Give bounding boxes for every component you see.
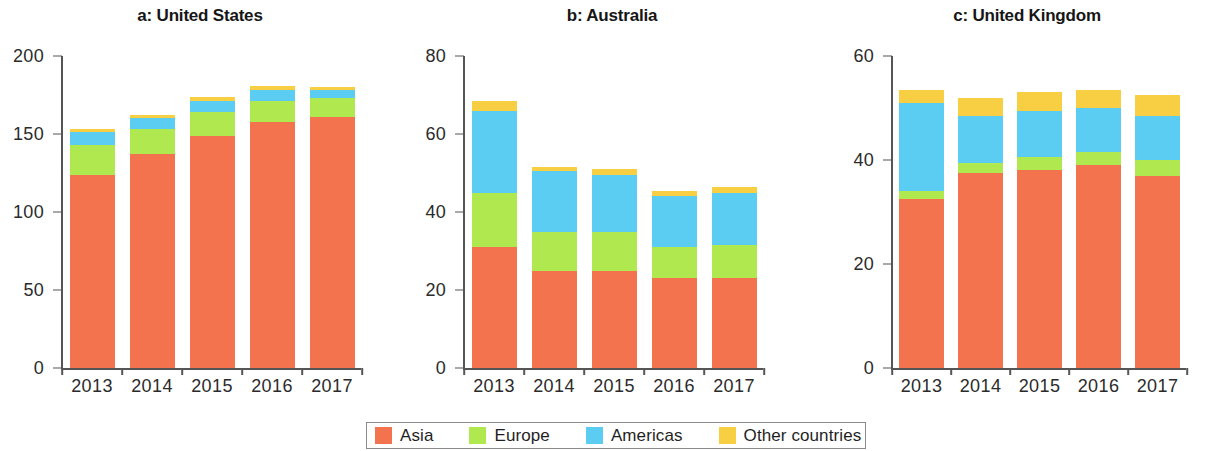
bar-b-2013 xyxy=(472,101,517,368)
legend-swatch-icon xyxy=(586,427,603,444)
bar-segment-europe xyxy=(310,98,355,117)
bar-segment-europe xyxy=(1076,152,1121,165)
bar-segment-asia xyxy=(652,278,697,368)
x-tick-mark xyxy=(763,368,765,375)
y-tick-mark xyxy=(883,55,892,57)
panel-title-b: b: Australia xyxy=(412,6,812,26)
legend-swatch-icon xyxy=(375,427,392,444)
x-tick-label-c-2017: 2017 xyxy=(1137,376,1179,397)
x-tick-mark xyxy=(643,368,645,375)
bar-segment-asia xyxy=(472,247,517,368)
legend-item-asia[interactable]: Asia xyxy=(375,426,433,446)
bar-group-c xyxy=(892,56,1187,368)
x-tick-mark xyxy=(703,368,705,375)
bar-segment-americas xyxy=(712,193,757,246)
bar-segment-other-countries xyxy=(1017,92,1062,110)
stacked-bar-chart-figure: a: United States 050100150200 2013201420… xyxy=(0,0,1224,451)
y-tick-a-100: 100 xyxy=(13,202,62,223)
bar-segment-americas xyxy=(958,116,1003,163)
bar-segment-americas xyxy=(592,175,637,232)
bar-segment-europe xyxy=(1135,160,1180,176)
legend-swatch-icon xyxy=(469,427,486,444)
bar-segment-americas xyxy=(1017,111,1062,158)
plot-area-a: 050100150200 xyxy=(62,56,362,368)
y-tick-mark xyxy=(53,55,62,57)
legend-swatch-icon xyxy=(719,427,736,444)
x-tick-label-a-2017: 2017 xyxy=(311,376,353,397)
y-tick-mark xyxy=(53,289,62,291)
plot-area-b: 020406080 xyxy=(464,56,764,368)
y-tick-c-20: 20 xyxy=(853,254,892,275)
y-tick-mark xyxy=(455,289,464,291)
bar-b-2015 xyxy=(592,169,637,368)
bar-segment-europe xyxy=(532,232,577,271)
x-tick-label-b-2013: 2013 xyxy=(473,376,515,397)
bar-segment-americas xyxy=(1076,108,1121,152)
y-tick-label: 0 xyxy=(34,358,53,379)
x-tick-mark xyxy=(523,368,525,375)
bar-segment-asia xyxy=(958,173,1003,368)
bar-segment-europe xyxy=(1017,157,1062,170)
legend-label: Asia xyxy=(400,426,433,446)
x-tick-mark xyxy=(121,368,123,375)
y-tick-b-0: 0 xyxy=(436,358,464,379)
x-axis-line-a xyxy=(61,368,361,370)
bar-a-2014 xyxy=(130,115,175,368)
legend-item-americas[interactable]: Americas xyxy=(586,426,683,446)
x-tick-mark xyxy=(361,368,363,375)
x-tick-mark xyxy=(181,368,183,375)
bar-segment-asia xyxy=(190,136,235,368)
x-tick-mark xyxy=(1068,368,1070,375)
x-tick-mark xyxy=(1186,368,1188,375)
y-tick-mark xyxy=(53,133,62,135)
bar-segment-americas xyxy=(130,118,175,129)
y-tick-b-80: 80 xyxy=(425,46,464,67)
y-tick-b-40: 40 xyxy=(425,202,464,223)
x-tick-label-b-2016: 2016 xyxy=(653,376,695,397)
x-axis-line-b xyxy=(463,368,763,370)
bar-a-2017 xyxy=(310,87,355,368)
bar-b-2016 xyxy=(652,191,697,368)
y-tick-mark xyxy=(883,263,892,265)
x-tick-label-c-2014: 2014 xyxy=(960,376,1002,397)
bar-segment-europe xyxy=(472,193,517,248)
y-tick-label: 40 xyxy=(853,150,883,171)
bar-a-2015 xyxy=(190,97,235,368)
bar-segment-americas xyxy=(899,103,944,191)
legend-item-europe[interactable]: Europe xyxy=(469,426,549,446)
bar-segment-asia xyxy=(250,122,295,368)
bar-segment-asia xyxy=(712,278,757,368)
y-tick-label: 20 xyxy=(425,280,455,301)
y-tick-a-150: 150 xyxy=(13,124,62,145)
y-tick-label: 0 xyxy=(436,358,455,379)
bar-segment-asia xyxy=(1135,176,1180,368)
x-tick-mark xyxy=(301,368,303,375)
x-tick-label-b-2017: 2017 xyxy=(713,376,755,397)
chart-panel-australia: b: Australia 020406080 20132014201520162… xyxy=(412,0,812,400)
bar-segment-asia xyxy=(70,175,115,368)
bar-segment-americas xyxy=(70,132,115,144)
bar-segment-americas xyxy=(652,196,697,247)
bar-segment-europe xyxy=(70,145,115,175)
legend-item-other-countries[interactable]: Other countries xyxy=(719,426,862,446)
bar-group-b xyxy=(464,56,764,368)
x-tick-label-c-2015: 2015 xyxy=(1019,376,1061,397)
x-tick-mark xyxy=(891,368,893,375)
x-tick-mark xyxy=(950,368,952,375)
y-tick-a-0: 0 xyxy=(34,358,62,379)
y-tick-label: 40 xyxy=(425,202,455,223)
bar-c-2017 xyxy=(1135,95,1180,368)
panel-title-c: c: United Kingdom xyxy=(830,6,1224,26)
bar-group-a xyxy=(62,56,362,368)
chart-panel-united-kingdom: c: United Kingdom 0204060 20132014201520… xyxy=(830,0,1224,400)
y-tick-label: 60 xyxy=(425,124,455,145)
x-tick-label-b-2015: 2015 xyxy=(593,376,635,397)
bar-b-2014 xyxy=(532,167,577,368)
bar-segment-americas xyxy=(1135,116,1180,160)
bar-segment-europe xyxy=(712,245,757,278)
y-tick-a-50: 50 xyxy=(23,280,62,301)
x-tick-label-a-2013: 2013 xyxy=(71,376,113,397)
bar-segment-other-countries xyxy=(958,98,1003,116)
x-tick-label-c-2013: 2013 xyxy=(901,376,943,397)
bar-segment-europe xyxy=(958,163,1003,173)
